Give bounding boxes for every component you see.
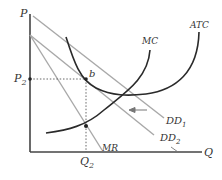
guide-lines bbox=[30, 79, 86, 152]
point-p2 bbox=[28, 77, 32, 81]
mr-label: MR bbox=[101, 143, 118, 153]
dd2-label: DD2 bbox=[159, 132, 181, 146]
shift-arrow bbox=[129, 108, 147, 113]
point-b bbox=[84, 77, 88, 81]
y-axis-label: P bbox=[19, 7, 28, 20]
dd1-label: DD1 bbox=[165, 115, 187, 129]
point-mc-mr bbox=[84, 124, 88, 128]
mc-curve bbox=[46, 50, 150, 133]
point-b-label: b bbox=[89, 68, 95, 79]
p2-label: P2 bbox=[13, 72, 27, 87]
economics-diagram: P Q P2 Q2 b MC ATC MR DD1 DD2 bbox=[0, 0, 222, 180]
x-axis-label: Q bbox=[204, 146, 213, 159]
atc-label: ATC bbox=[189, 20, 209, 30]
mc-label: MC bbox=[141, 36, 158, 46]
q2-label: Q2 bbox=[80, 155, 94, 170]
dd1-line bbox=[33, 16, 164, 118]
mr-line bbox=[30, 35, 102, 150]
